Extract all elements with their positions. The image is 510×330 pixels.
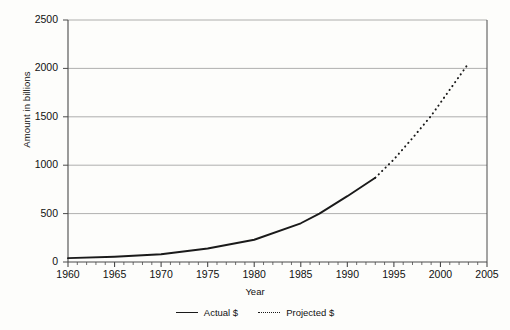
x-axis-tick-label: 1985 bbox=[279, 268, 323, 280]
y-axis-tick-label: 1500 bbox=[16, 110, 58, 122]
data-series-actual bbox=[68, 178, 375, 258]
x-axis-tick-label: 1965 bbox=[93, 268, 137, 280]
x-axis-title: Year bbox=[0, 286, 510, 297]
y-axis-tick-label: 0 bbox=[16, 255, 58, 267]
x-axis-tick-label: 2005 bbox=[465, 268, 509, 280]
x-axis-tick-label: 1980 bbox=[232, 268, 276, 280]
y-axis-tick-label: 2000 bbox=[16, 61, 58, 73]
y-axis-tick-label: 2500 bbox=[16, 13, 58, 25]
x-axis-tick-label: 2000 bbox=[418, 268, 462, 280]
x-axis-tick-label: 1970 bbox=[139, 268, 183, 280]
legend-label: Actual $ bbox=[204, 307, 238, 318]
x-axis-tick-label: 1990 bbox=[325, 268, 369, 280]
legend-entry: Projected $ bbox=[258, 307, 334, 318]
x-axis-tick-label: 1960 bbox=[46, 268, 90, 280]
y-axis-tick-label: 500 bbox=[16, 207, 58, 219]
legend-solid-line-icon bbox=[176, 312, 198, 313]
x-axis-tick-label: 1995 bbox=[372, 268, 416, 280]
plot-area bbox=[0, 0, 510, 330]
line-chart: Amount in billions 05001000150020002500 … bbox=[0, 0, 510, 330]
y-axis-tick-label: 1000 bbox=[16, 158, 58, 170]
legend-entry: Actual $ bbox=[176, 307, 238, 318]
legend-label: Projected $ bbox=[286, 307, 334, 318]
chart-legend: Actual $Projected $ bbox=[0, 307, 510, 318]
data-series-projected bbox=[375, 64, 468, 178]
x-axis-tick-label: 1975 bbox=[186, 268, 230, 280]
legend-dotted-line-icon bbox=[258, 312, 280, 313]
